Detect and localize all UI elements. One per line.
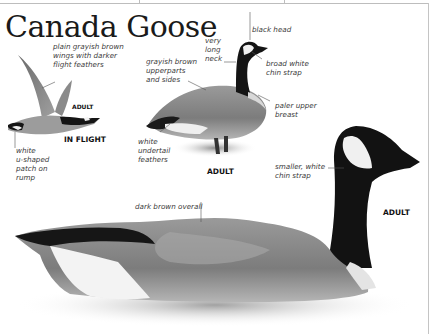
label-flight-rump: white u-shaped patch on rump <box>16 146 49 182</box>
label-chin-strap-broad: broad white chin strap <box>266 59 309 77</box>
label-upperparts: grayish brown upperparts and sides <box>146 57 197 84</box>
label-black-head: black head <box>252 25 291 34</box>
label-undertail: white undertail feathers <box>138 137 170 164</box>
label-flight-wings: plain grayish brown wings with darker fl… <box>53 42 124 69</box>
caption-swimming-adult: ADULT <box>383 208 410 217</box>
caption-in-flight: IN FLIGHT <box>64 135 106 144</box>
caption-standing-adult: ADULT <box>207 167 234 176</box>
label-dark-brown: dark brown overall <box>135 202 202 211</box>
caption-in-flight-adult: ADULT <box>72 102 93 111</box>
field-guide-page: Canada Goose <box>0 0 433 334</box>
label-long-neck: very long neck <box>205 36 222 63</box>
label-paler-breast: paler upper breast <box>275 101 317 119</box>
label-chin-strap-smaller: smaller, white chin strap <box>275 162 325 180</box>
